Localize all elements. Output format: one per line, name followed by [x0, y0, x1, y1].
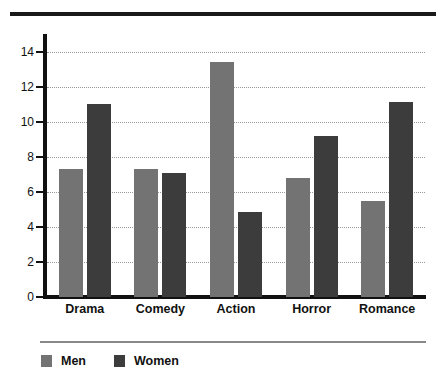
bar-chart-figure: 02468101214 DramaComedyActionHorrorRoman… [0, 0, 444, 376]
bar-group [210, 34, 262, 297]
y-axis-tick-label: 14 [4, 46, 34, 58]
y-axis-tick-mark [36, 156, 44, 158]
chart-legend: MenWomen [41, 352, 207, 370]
plot-wrapper: 02468101214 DramaComedyActionHorrorRoman… [0, 0, 444, 312]
bar-romance-men[interactable] [361, 201, 385, 297]
y-axis-tick-label-holder: 14 [0, 46, 34, 58]
y-axis-tick-label-holder: 12 [0, 81, 34, 93]
y-axis-tick-label-holder: 10 [0, 116, 34, 128]
x-axis-label-comedy: Comedy [123, 303, 199, 316]
y-axis-tick-label: 12 [4, 81, 34, 93]
y-axis-tick-mark [36, 261, 44, 263]
y-axis-tick-mark [36, 191, 44, 193]
y-axis-tick-mark [36, 51, 44, 53]
legend-separator-rule [40, 341, 426, 343]
y-axis-tick-label: 8 [4, 151, 34, 163]
legend-item-women[interactable]: Women [114, 355, 179, 368]
y-axis-tick-mark [36, 296, 44, 298]
bar-drama-men[interactable] [59, 169, 83, 297]
bar-comedy-women[interactable] [162, 173, 186, 297]
bar-action-women[interactable] [238, 212, 262, 297]
y-axis-tick-mark [36, 226, 44, 228]
x-axis-label-action: Action [198, 303, 274, 316]
y-axis-tick-label: 6 [4, 186, 34, 198]
bar-action-men[interactable] [210, 62, 234, 297]
bar-group [134, 34, 186, 297]
y-axis-tick-label-holder: 4 [0, 221, 34, 233]
y-axis-tick-label-holder: 2 [0, 256, 34, 268]
bar-group [286, 34, 338, 297]
y-axis-tick-label: 10 [4, 116, 34, 128]
y-axis-tick-label: 0 [4, 291, 34, 303]
y-axis-tick-label-holder: 8 [0, 151, 34, 163]
bar-comedy-men[interactable] [134, 169, 158, 297]
bar-romance-women[interactable] [389, 102, 413, 297]
y-axis-tick-mark [36, 121, 44, 123]
bar-drama-women[interactable] [87, 104, 111, 297]
bar-group [59, 34, 111, 297]
bar-group [361, 34, 413, 297]
bar-horror-women[interactable] [314, 136, 338, 297]
y-axis-tick-label-holder: 6 [0, 186, 34, 198]
legend-label-men: Men [61, 355, 86, 368]
legend-swatch-women [114, 355, 125, 367]
y-axis-tick-mark [36, 86, 44, 88]
legend-label-women: Women [134, 355, 179, 368]
x-axis-label-horror: Horror [274, 303, 350, 316]
legend-item-men[interactable]: Men [41, 355, 86, 368]
y-axis-tick-label: 4 [4, 221, 34, 233]
y-axis-tick-label-holder: 0 [0, 291, 34, 303]
y-axis-tick-label: 2 [4, 256, 34, 268]
x-axis-label-romance: Romance [349, 303, 425, 316]
bar-horror-men[interactable] [286, 178, 310, 297]
plot-area [47, 34, 425, 297]
legend-swatch-men [41, 355, 52, 367]
x-axis-label-drama: Drama [47, 303, 123, 316]
